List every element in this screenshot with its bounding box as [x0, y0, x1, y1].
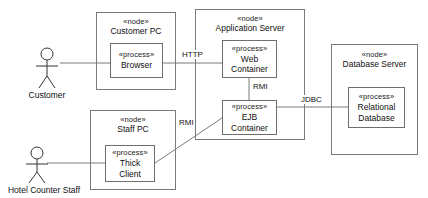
process-ejb-container-stereotype: «process» [232, 102, 268, 111]
process-web-container-name-line1: Web [241, 54, 258, 64]
actor-label-hotel-counter-staff: Hotel Counter Staff [0, 185, 88, 195]
node-staff-pc-name: Staff PC [91, 125, 175, 135]
process-relational-database-name-line2: Database [358, 113, 394, 123]
process-browser-name: Browser [121, 60, 152, 70]
process-browser-stereotype: «process» [119, 50, 155, 59]
edge-label-jdbc: JDBC [300, 95, 323, 104]
process-web-container-stereotype: «process» [232, 44, 268, 53]
process-relational-database-stereotype: «process» [359, 92, 395, 101]
deployment-diagram-canvas: «node» Customer PC «process» Browser «no… [0, 0, 428, 198]
process-thick-client-name-line1: Thick [120, 158, 140, 168]
customer-actor-icon [36, 48, 58, 88]
process-relational-database-name-line1: Relational [358, 102, 396, 112]
process-web-container-name-line2: Container [231, 64, 268, 74]
edge-label-rmi-web-ejb: RMI [252, 82, 269, 91]
edge-label-rmi-thick-ejb: RMI [178, 118, 195, 127]
staff-actor-icon [26, 147, 48, 183]
process-ejb-container[interactable]: «process» EJB Container [222, 100, 277, 135]
process-ejb-container-name-line1: EJB [242, 112, 258, 122]
process-ejb-container-name-line2: Container [231, 123, 268, 133]
process-thick-client-name-line2: Client [119, 169, 141, 179]
process-web-container[interactable]: «process» Web Container [222, 40, 277, 78]
node-customer-pc-name: Customer PC [97, 27, 175, 37]
process-thick-client[interactable]: «process» Thick Client [105, 145, 155, 182]
actor-label-customer: Customer [17, 90, 77, 100]
process-browser[interactable]: «process» Browser [110, 43, 163, 78]
process-thick-client-stereotype: «process» [112, 148, 148, 157]
edge-label-http: HTTP [181, 50, 204, 59]
node-application-server-name: Application Server [196, 24, 304, 34]
node-database-server-name: Database Server [332, 60, 417, 70]
process-relational-database[interactable]: «process» Relational Database [348, 87, 405, 128]
